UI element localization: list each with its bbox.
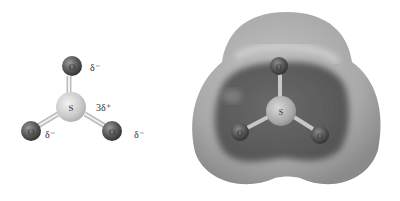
atom-label-o-right: O	[317, 132, 323, 141]
electrostatic-potential-model: O S O O	[192, 12, 380, 184]
charge-label-o-left: δ⁻	[45, 129, 55, 140]
so3-figure: O δ⁻ S 3δ⁺ O δ⁻ O δ⁻ O S O O	[0, 0, 400, 201]
atom-label-s: S	[68, 103, 73, 113]
atom-label-o-top: O	[276, 63, 282, 72]
atom-label-o-top: O	[69, 62, 76, 72]
atom-label-s: S	[279, 108, 283, 117]
atom-label-o-right: O	[109, 127, 116, 137]
surface-light-patch	[222, 89, 242, 103]
atom-label-o-left: O	[28, 127, 35, 137]
atom-label-o-left: O	[237, 129, 243, 138]
charge-label-s: 3δ⁺	[96, 102, 111, 113]
charge-label-o-top: δ⁻	[90, 62, 100, 73]
charge-label-o-right: δ⁻	[134, 129, 144, 140]
ball-and-stick-model: O δ⁻ S 3δ⁺ O δ⁻ O δ⁻	[21, 56, 144, 141]
